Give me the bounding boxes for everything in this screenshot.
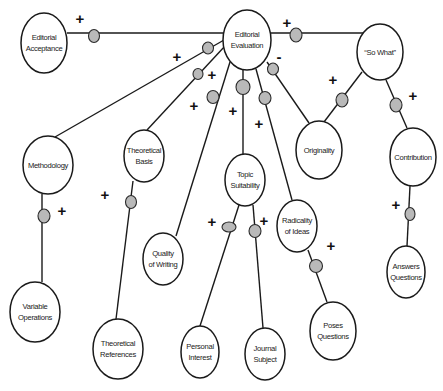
node-poses-questions: PosesQuestions: [310, 302, 356, 360]
node-label: Theoretical: [101, 339, 136, 348]
negative-polarity-sign: -: [277, 48, 282, 65]
connector-dot-radicality-of-ideas-to-poses-questions: [310, 260, 323, 273]
node-methodology: Methodology: [23, 136, 73, 194]
node-label: Radicality: [282, 216, 312, 225]
nodes-layer: EditorialAcceptanceEditorialEvaluation“S…: [10, 10, 436, 380]
connector-dot-topic-suitability-to-personal-interest: [222, 222, 236, 232]
connector-dot-methodology-to-variable-operations: [38, 209, 50, 223]
node-label: Operations: [18, 313, 53, 322]
connector-dot-editorial-evaluation-to-theoretical-basis: [193, 69, 203, 80]
node-originality: Originality: [296, 121, 342, 179]
node-label: Methodology: [28, 161, 69, 170]
node-radicality-of-ideas: Radicalityof Ideas: [277, 200, 317, 252]
node-label: Subject: [253, 355, 277, 364]
node-theoretical-references: TheoreticalReferences: [93, 319, 143, 379]
node-label: Questions: [390, 273, 422, 282]
connectors-layer: [38, 28, 415, 273]
node-answers-questions: AnswersQuestions: [387, 246, 425, 298]
node-label: Contribution: [394, 153, 431, 162]
figure-caption: [0, 384, 443, 391]
positive-polarity-sign: +: [392, 196, 401, 213]
positive-polarity-sign: +: [260, 212, 269, 229]
node-label: Theoretical: [127, 146, 162, 155]
node-editorial-evaluation: EditorialEvaluation: [223, 10, 271, 70]
node-label: of Writing: [149, 260, 178, 269]
connector-dot-editorial-evaluation-to-editorial-acceptance: [89, 30, 100, 43]
node-editorial-acceptance: EditorialAcceptance: [21, 13, 67, 73]
node-label: References: [100, 350, 136, 359]
connector-dot-editorial-evaluation-to-quality-of-writing: [207, 91, 219, 104]
positive-polarity-sign: +: [208, 213, 217, 230]
positive-polarity-sign: +: [173, 48, 182, 65]
connector-dot-editorial-evaluation-to-methodology: [203, 42, 214, 54]
node-label: “So What”: [364, 48, 396, 57]
connector-dot-editorial-evaluation-to-so-what: [290, 28, 302, 42]
node-label: Editorial: [32, 33, 57, 42]
node-label: Quality: [152, 249, 174, 258]
positive-polarity-sign: +: [255, 115, 264, 132]
node-label: Suitability: [230, 181, 260, 190]
node-topic-suitability: TopicSuitability: [225, 154, 265, 206]
positive-polarity-sign: +: [409, 87, 418, 104]
node-theoretical-basis: TheoreticalBasis: [124, 130, 164, 182]
node-label: Poses: [323, 321, 343, 330]
positive-polarity-sign: +: [208, 66, 217, 83]
node-journal-subject: JournalSubject: [245, 328, 285, 380]
node-label: Answers: [392, 262, 420, 271]
edge-editorial-evaluation-to-quality-of-writing: [176, 62, 230, 236]
positive-polarity-sign: +: [229, 102, 238, 119]
node-label: Topic: [237, 170, 254, 179]
connector-dot-contribution-to-answers-questions: [405, 208, 415, 221]
positive-polarity-sign: +: [58, 202, 67, 219]
node-variable-operations: VariableOperations: [10, 282, 60, 342]
node-quality-of-writing: Qualityof Writing: [143, 233, 183, 285]
node-label: Acceptance: [26, 44, 63, 53]
node-contribution: Contribution: [390, 128, 436, 186]
node-label: Evaluation: [231, 41, 264, 50]
edge-radicality-of-ideas-to-poses-questions: [308, 250, 327, 302]
node-label: Basis: [135, 157, 153, 166]
node-personal-interest: PersonalInterest: [181, 326, 219, 378]
positive-polarity-sign: +: [190, 97, 199, 114]
node-label: Journal: [254, 344, 277, 353]
positive-polarity-sign: +: [329, 71, 338, 88]
node-label: Questions: [317, 332, 349, 341]
connector-dot-so-what-to-originality: [336, 93, 348, 107]
node-label: of Ideas: [285, 227, 310, 236]
positive-polarity-sign: +: [101, 186, 110, 203]
connector-dot-so-what-to-contribution: [390, 98, 402, 112]
edge-editorial-evaluation-to-methodology: [55, 40, 224, 137]
node-so-what: “So What”: [357, 24, 403, 80]
connector-dot-theoretical-basis-to-theoretical-references: [126, 196, 137, 209]
connector-dot-editorial-evaluation-to-topic-suitability: [236, 80, 250, 95]
positive-polarity-sign: +: [327, 237, 336, 254]
positive-polarity-sign: +: [76, 10, 85, 27]
node-label: Personal: [186, 342, 214, 351]
causal-loop-diagram: +++++++-++++++++ EditorialAcceptanceEdit…: [0, 0, 443, 391]
node-label: Editorial: [235, 30, 260, 39]
node-label: Variable: [23, 302, 48, 311]
node-label: Originality: [304, 146, 335, 155]
node-label: Interest: [189, 353, 213, 362]
positive-polarity-sign: +: [283, 14, 292, 31]
connector-dot-editorial-evaluation-to-radicality-of-ideas: [259, 92, 271, 105]
